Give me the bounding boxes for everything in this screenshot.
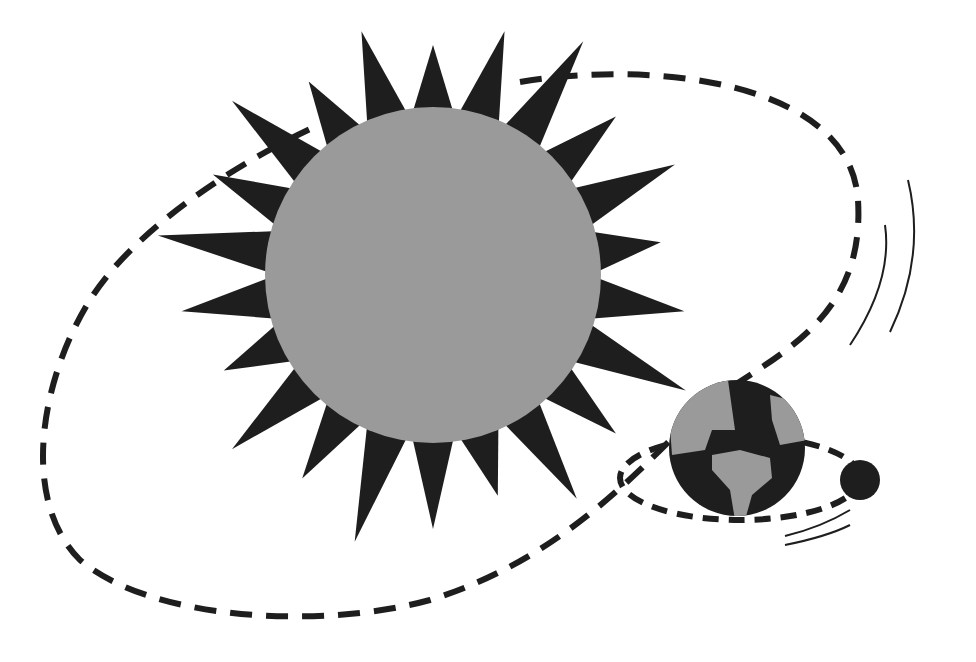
sun-disc [265, 107, 601, 443]
solar-system-diagram [0, 0, 976, 662]
earth [668, 380, 808, 520]
moon [840, 460, 880, 500]
